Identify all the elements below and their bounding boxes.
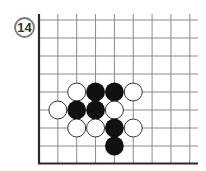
black-stone [67,101,86,120]
white-stone [124,119,142,137]
white-stone [124,83,142,101]
black-stone [105,137,124,156]
black-stone [86,83,105,102]
white-stone [87,119,105,137]
black-stone [86,101,105,120]
white-stone [68,119,86,137]
go-board-diagram: 14 [0,0,206,171]
black-stone [105,119,124,138]
white-stone [105,101,123,119]
black-stone [105,83,124,102]
problem-number-badge: 14 [15,18,34,37]
problem-number-label: 14 [17,20,32,35]
white-stone [68,83,86,101]
white-stone [49,101,67,119]
